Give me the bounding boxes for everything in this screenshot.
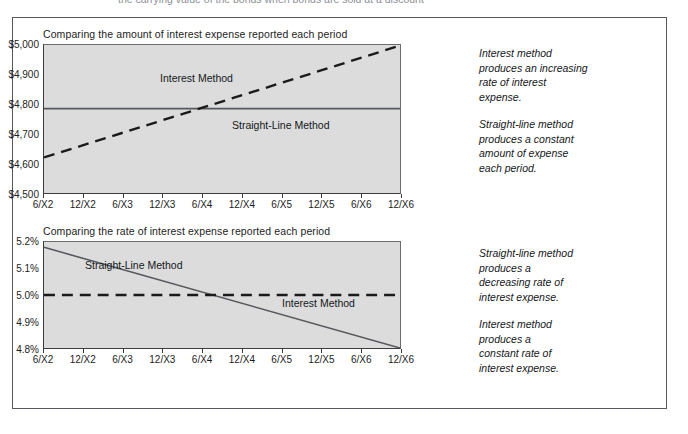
y-axis-tick-label: $4,700 — [8, 129, 39, 140]
series-label-interest-method-rate: Interest Method — [282, 297, 355, 309]
plot-wrap-rate: 5.2%5.1%5.0%4.9%4.8% Straight-Line Metho… — [43, 241, 401, 369]
x-axis-tick — [162, 349, 163, 353]
x-axis-tick-label: 6/X3 — [112, 199, 133, 210]
x-axis-tick — [123, 194, 124, 198]
y-axis-tick-label: 5.0% — [16, 290, 39, 301]
x-axis-tick-label: 6/X4 — [192, 199, 213, 210]
x-axis-tick-label: 12/X4 — [229, 354, 255, 365]
y-axis-tick-label: $4,500 — [8, 189, 39, 200]
x-axis-tick-label: 12/X3 — [149, 354, 175, 365]
annotations-rate: Straight-line methodproduces adecreasing… — [479, 246, 629, 375]
x-axis-tick-label: 6/X2 — [33, 354, 54, 365]
x-axis-labels-amount: 6/X212/X26/X312/X36/X412/X46/X512/X56/X6… — [43, 194, 401, 214]
panel-title-amount: Comparing the amount of interest expense… — [43, 28, 401, 40]
x-axis-tick — [83, 349, 84, 353]
x-axis-tick — [202, 349, 203, 353]
chart-panel-rate: Comparing the rate of interest expense r… — [43, 225, 401, 369]
series-label-interest-method-amount: Interest Method — [160, 72, 233, 84]
series-lines-amount — [44, 45, 400, 193]
interest-method-line — [44, 46, 400, 158]
annotation-text: Interest methodproduces aconstant rate o… — [479, 317, 629, 375]
plot-area-amount: Interest Method Straight-Line Method — [43, 44, 401, 194]
x-axis-tick — [321, 194, 322, 198]
y-axis-tick-label: $4,900 — [8, 69, 39, 80]
chart-panel-amount: Comparing the amount of interest expense… — [43, 28, 401, 214]
x-axis-tick-label: 6/X3 — [112, 354, 133, 365]
y-axis-labels-amount: $5,000$4,900$4,800$4,700$4,600$4,500 — [0, 44, 39, 214]
x-axis-tick-label: 12/X6 — [388, 354, 414, 365]
y-axis-tick-label: $5,000 — [8, 39, 39, 50]
x-axis-tick — [242, 194, 243, 198]
x-axis-tick-label: 12/X6 — [388, 199, 414, 210]
x-axis-tick-label: 12/X5 — [308, 199, 334, 210]
x-axis-tick — [242, 349, 243, 353]
clipped-top-text: the carrying value of the bonds when bon… — [0, 0, 688, 7]
y-axis-tick-label: 5.1% — [16, 263, 39, 274]
y-axis-labels-rate: 5.2%5.1%5.0%4.9%4.8% — [0, 241, 39, 369]
series-label-straight-line-method-rate: Straight-Line Method — [85, 259, 182, 271]
x-axis-tick — [202, 194, 203, 198]
annotation-text: Straight-line methodproduces adecreasing… — [479, 246, 629, 304]
x-axis-tick — [123, 349, 124, 353]
plot-wrap-amount: $5,000$4,900$4,800$4,700$4,600$4,500 Int… — [43, 44, 401, 214]
x-axis-tick — [401, 349, 402, 353]
series-label-straight-line-method-amount: Straight-Line Method — [232, 119, 329, 131]
figure-frame: Comparing the amount of interest expense… — [12, 17, 667, 409]
x-axis-tick-label: 12/X2 — [70, 354, 96, 365]
x-axis-tick — [162, 194, 163, 198]
x-axis-tick-label: 12/X2 — [70, 199, 96, 210]
annotation-text: Straight-line methodproduces a constanta… — [479, 117, 629, 175]
x-axis-tick — [43, 194, 44, 198]
annotations-amount: Interest methodproduces an increasingrat… — [479, 46, 629, 175]
y-axis-tick-label: 5.2% — [16, 236, 39, 247]
panel-title-rate: Comparing the rate of interest expense r… — [43, 225, 401, 237]
x-axis-tick — [401, 194, 402, 198]
chart-block-amount: $5,000$4,900$4,800$4,700$4,600$4,500 Int… — [43, 44, 401, 214]
y-axis-tick-label: $4,600 — [8, 159, 39, 170]
x-axis-tick-label: 6/X6 — [351, 354, 372, 365]
x-axis-tick — [361, 194, 362, 198]
plot-area-rate: Straight-Line Method Interest Method — [43, 241, 401, 349]
y-axis-tick-label: 4.8% — [16, 344, 39, 355]
y-axis-tick-label: $4,800 — [8, 99, 39, 110]
x-axis-tick — [282, 349, 283, 353]
x-axis-tick-label: 12/X4 — [229, 199, 255, 210]
chart-block-rate: 5.2%5.1%5.0%4.9%4.8% Straight-Line Metho… — [43, 241, 401, 369]
x-axis-tick-label: 6/X2 — [33, 199, 54, 210]
x-axis-tick — [43, 349, 44, 353]
x-axis-tick-label: 12/X5 — [308, 354, 334, 365]
x-axis-tick-label: 6/X6 — [351, 199, 372, 210]
x-axis-tick-label: 6/X5 — [271, 354, 292, 365]
series-lines-rate — [44, 242, 400, 348]
x-axis-tick — [282, 194, 283, 198]
x-axis-tick-label: 6/X4 — [192, 354, 213, 365]
x-axis-tick — [361, 349, 362, 353]
y-axis-tick-label: 4.9% — [16, 317, 39, 328]
clipped-top-text-label: the carrying value of the bonds when bon… — [118, 0, 424, 5]
x-axis-tick-label: 12/X3 — [149, 199, 175, 210]
x-axis-tick-label: 6/X5 — [271, 199, 292, 210]
x-axis-tick — [83, 194, 84, 198]
x-axis-labels-rate: 6/X212/X26/X312/X36/X412/X46/X512/X56/X6… — [43, 349, 401, 369]
x-axis-tick — [321, 349, 322, 353]
annotation-text: Interest methodproduces an increasingrat… — [479, 46, 629, 104]
